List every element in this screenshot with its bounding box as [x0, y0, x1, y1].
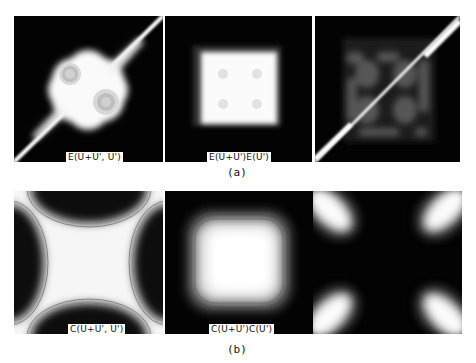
caption-b: (b): [227, 343, 247, 356]
panel-a3-image: [315, 16, 460, 162]
panel-b2-image: [165, 191, 313, 334]
panel-a1-image: [14, 16, 163, 162]
caption-a: (a): [227, 166, 247, 179]
panel-b2-label: C(U+U')C(U'): [209, 324, 274, 334]
panel-b3-image: [313, 191, 462, 334]
panel-a3: [315, 16, 460, 162]
panel-a2-label: E(U+U')E(U'): [207, 152, 271, 162]
panel-a2-image: [165, 16, 312, 162]
panel-b2: C(U+U')C(U'): [165, 191, 313, 334]
panel-a2: E(U+U')E(U'): [165, 16, 312, 162]
panel-b3: [313, 191, 462, 334]
panel-a1-label: E(U+U', U'): [66, 152, 123, 162]
panel-a1: E(U+U', U'): [14, 16, 163, 162]
panel-b1-label: C(U+U', U'): [68, 324, 125, 334]
panel-b1: C(U+U', U'): [14, 191, 163, 334]
panel-b1-image: [14, 191, 163, 334]
